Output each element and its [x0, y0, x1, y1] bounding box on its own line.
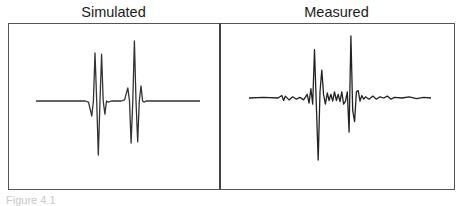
- measured-waveform-line: [249, 36, 431, 160]
- figure-caption: Figure 4.1: [6, 194, 56, 206]
- waveform-plots: [0, 0, 462, 206]
- simulated-waveform-line: [36, 41, 200, 155]
